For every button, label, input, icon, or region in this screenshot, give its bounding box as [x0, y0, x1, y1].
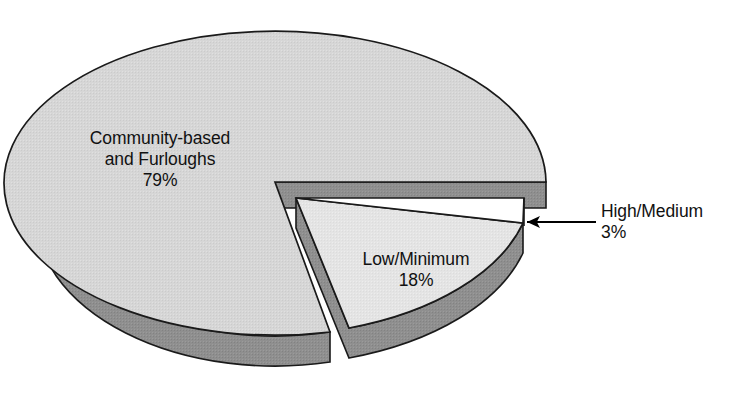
slice-label-low-minimum-line1: Low/Minimum — [333, 249, 499, 270]
slice-label-community-based: Community-based and Furloughs 79% — [62, 128, 258, 191]
slice-label-community-line1: Community-based — [62, 128, 258, 149]
slice-label-high-medium-line1: High/Medium — [601, 201, 746, 222]
slice-value-low-minimum: 18% — [333, 270, 499, 291]
slice-label-high-medium: High/Medium 3% — [601, 201, 746, 243]
slice-value-community: 79% — [62, 170, 258, 191]
pie-chart-figure: Community-based and Furloughs 79% Low/Mi… — [0, 0, 750, 399]
slice-value-high-medium: 3% — [601, 222, 746, 243]
pie-chart-canvas — [0, 0, 750, 399]
slice-label-community-line2: and Furloughs — [62, 149, 258, 170]
slice-label-low-minimum: Low/Minimum 18% — [333, 249, 499, 291]
